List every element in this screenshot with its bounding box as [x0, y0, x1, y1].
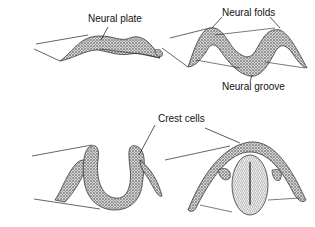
- panel-crest-cells: [32, 125, 162, 210]
- label-neural-groove: Neural groove: [222, 82, 285, 92]
- panel-neural-folds: [155, 17, 307, 82]
- label-neural-folds: Neural folds: [222, 8, 275, 18]
- panel-neural-tube: [165, 128, 306, 215]
- label-crest-cells: Crest cells: [158, 114, 205, 124]
- label-neural-plate: Neural plate: [88, 14, 142, 24]
- panel-neural-plate: [34, 27, 160, 61]
